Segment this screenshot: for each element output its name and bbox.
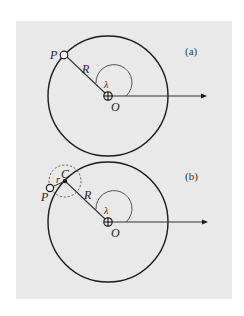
label-r-b: R [83, 188, 92, 202]
point-p-a [60, 51, 68, 59]
label-c: C [61, 167, 70, 181]
label-p-a: P [49, 48, 58, 62]
label-p-b: P [40, 190, 49, 204]
label-angle-a: λ [103, 79, 109, 90]
label-o-b: O [111, 226, 120, 240]
arrowhead-icon [201, 94, 207, 99]
label-small-r: r [56, 174, 60, 185]
arrowhead-icon [202, 220, 208, 225]
diagram: P R λ O (a) C r P R λ O (b) [0, 0, 244, 316]
label-o-a: O [111, 100, 120, 114]
panel-tag-a: (a) [185, 45, 198, 58]
panel-tag-b: (b) [185, 170, 198, 183]
angle-arc-b [96, 191, 132, 222]
angle-arc-a [96, 65, 132, 96]
label-angle-b: λ [103, 205, 109, 216]
panel-b: C r P R λ O (b) [40, 162, 208, 282]
panel-a: P R λ O (a) [48, 36, 207, 156]
label-r-a: R [81, 62, 90, 76]
